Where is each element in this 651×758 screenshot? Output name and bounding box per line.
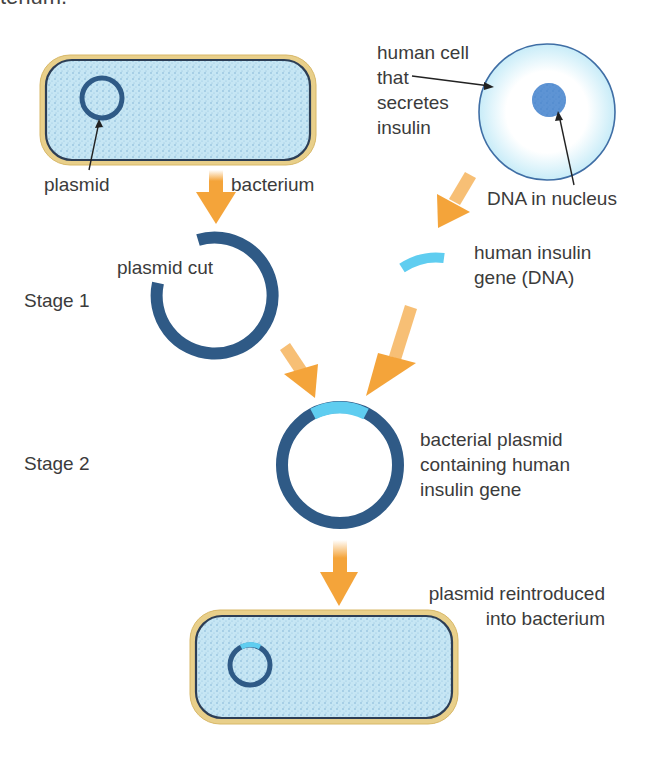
label-recombinant-1: bacterial plasmid: [420, 428, 563, 452]
arrow-gene-to-stage2: [366, 305, 417, 396]
label-recombinant-2: containing human: [420, 453, 570, 477]
arrow-cut-to-stage2: [280, 343, 318, 398]
arrow-stage2-to-bacterium: [320, 540, 358, 606]
label-bacterium: bacterium: [231, 173, 314, 197]
genetic-engineering-diagram: [0, 0, 651, 758]
label-plasmid: plasmid: [44, 173, 109, 197]
label-insulin-gene-1: human insulin: [474, 241, 591, 265]
label-human-cell-2: that: [377, 66, 409, 90]
label-human-cell-1: human cell: [377, 41, 469, 65]
label-reintroduced-2: into bacterium: [486, 607, 605, 631]
label-plasmid-cut: plasmid cut: [117, 256, 213, 280]
label-reintroduced-1: plasmid reintroduced: [429, 582, 605, 606]
label-stage-2: Stage 2: [24, 452, 90, 476]
label-dna-in-nucleus: DNA in nucleus: [487, 187, 617, 211]
label-human-cell-3: secretes: [377, 91, 449, 115]
bacterium-transformed: [190, 610, 458, 724]
label-human-cell-4: insulin: [377, 116, 431, 140]
plasmid-cut: [157, 238, 273, 354]
recombinant-plasmid: [282, 407, 398, 523]
label-stage-1: Stage 1: [24, 289, 90, 313]
arrow-bacterium-to-cut: [196, 170, 236, 224]
bacterium-original: [40, 55, 316, 170]
insulin-gene-fragment: [402, 257, 444, 268]
label-insulin-gene-2: gene (DNA): [474, 266, 574, 290]
label-recombinant-3: insulin gene: [420, 478, 521, 502]
arrow-cell-to-gene: [437, 172, 476, 228]
